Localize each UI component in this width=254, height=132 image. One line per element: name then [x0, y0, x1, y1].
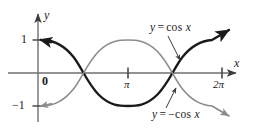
y-tick-label-neg-one: −1: [12, 99, 25, 111]
cos-curve-label: y=cos x: [150, 22, 191, 34]
cos-label-equals: =: [155, 21, 166, 33]
y-tick-label-one: 1: [21, 33, 27, 45]
cos-label-function: cos: [166, 21, 182, 33]
x-axis-label: x: [234, 57, 239, 69]
neg-cos-label-leader: [166, 88, 176, 108]
neg-cos-curve-label: y=−cos x: [152, 109, 200, 121]
neg-cos-label-equals: =: [157, 108, 168, 120]
neg-cos-label-function: −cos: [168, 108, 191, 120]
curve-cos-x: [44, 30, 229, 106]
cosine-graph-figure: y x 1 −1 0 π 2π y=cos x y=−cos x: [0, 0, 254, 132]
cos-label-leader: [168, 36, 180, 60]
cos-label-argument: x: [186, 21, 191, 33]
origin-label: 0: [42, 75, 48, 87]
x-tick-label-2pi: 2π: [213, 79, 224, 90]
neg-cos-label-argument: x: [194, 108, 199, 120]
x-tick-label-pi: π: [124, 79, 130, 90]
figure-canvas: [0, 0, 254, 132]
y-axis-label: y: [44, 9, 49, 21]
